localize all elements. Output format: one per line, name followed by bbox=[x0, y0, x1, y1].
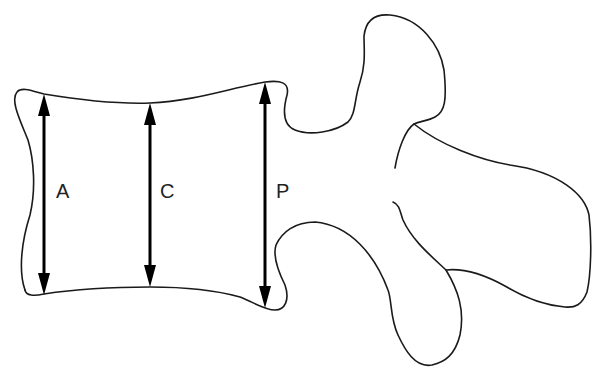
arrow-p bbox=[259, 82, 271, 308]
vertebra-diagram bbox=[0, 0, 605, 381]
arrow-up-icon bbox=[144, 103, 156, 125]
arrow-down-icon bbox=[259, 286, 271, 308]
arrow-a bbox=[38, 94, 50, 295]
label-central: C bbox=[160, 181, 174, 201]
arrow-c bbox=[144, 103, 156, 287]
arrow-down-icon bbox=[144, 265, 156, 287]
arrow-down-icon bbox=[38, 273, 50, 295]
inferior-process-outline bbox=[25, 202, 462, 365]
arrow-up-icon bbox=[259, 82, 271, 104]
vertebral-body-outline bbox=[15, 15, 446, 290]
label-anterior: A bbox=[56, 181, 69, 201]
spinous-process-outline bbox=[395, 124, 591, 307]
arrow-up-icon bbox=[38, 94, 50, 116]
label-posterior: P bbox=[276, 181, 289, 201]
